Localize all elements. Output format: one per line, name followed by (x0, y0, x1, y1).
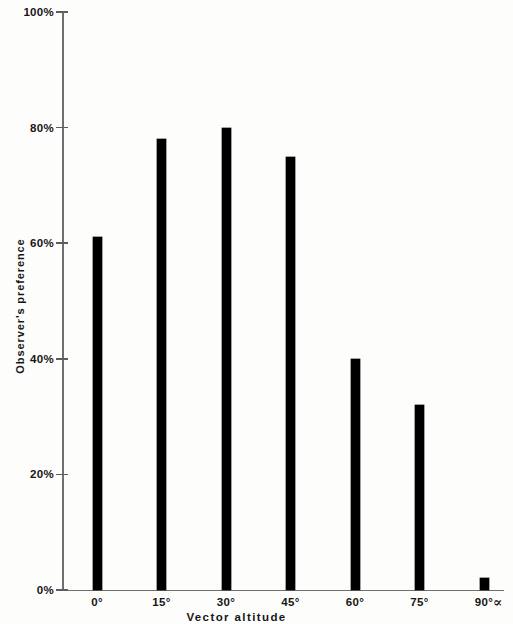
bar (222, 128, 231, 590)
y-axis-tick-label: 40% (4, 353, 54, 365)
y-axis-line (62, 12, 64, 591)
y-axis-tick-mark (56, 11, 68, 13)
bar (351, 359, 360, 590)
bar (415, 405, 424, 590)
bar (157, 139, 166, 590)
bar (286, 157, 295, 591)
x-axis-tick-label: 60° (332, 596, 378, 608)
y-axis-tick-label: 80% (4, 122, 54, 134)
x-axis-tick-label: 45° (268, 596, 314, 608)
bar-chart-figure: 100%80%60%40%20%0% 0°15°30°45°60°75°90° … (0, 0, 513, 624)
x-axis-line (62, 590, 504, 592)
bar (93, 237, 102, 590)
y-axis-tick-mark (56, 242, 68, 244)
x-axis-title: Vector altitude (0, 611, 513, 623)
x-axis-tick-label: 75° (397, 596, 443, 608)
y-axis-tick-mark (56, 589, 68, 591)
y-axis-tick-label: 60% (4, 237, 54, 249)
y-axis-tick-mark (56, 358, 68, 360)
x-axis-tick-label: 30° (203, 596, 249, 608)
y-axis-tick-mark (56, 474, 68, 476)
bar (480, 578, 489, 590)
x-axis-tick-label: 15° (139, 596, 185, 608)
y-axis-title: Observer's preference (14, 216, 26, 396)
y-axis-tick-label: 20% (4, 468, 54, 480)
y-axis-tick-mark (56, 127, 68, 129)
y-axis-tick-label: 100% (4, 6, 54, 18)
x-axis-tick-label: 0° (74, 596, 120, 608)
alpha-symbol-label: ∝ (493, 594, 502, 610)
y-axis-tick-label: 0% (4, 584, 54, 596)
